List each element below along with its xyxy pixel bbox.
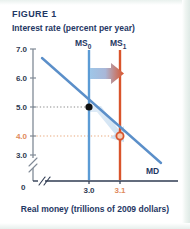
md-label: MD [146, 166, 159, 176]
y-tick-label-4: 4.0 [5, 132, 27, 141]
x-axis-title: Real money (trillions of 2009 dollars) [0, 204, 190, 214]
ms0-label: MS0 [75, 38, 91, 50]
y-tick-label-5: 5.0 [5, 103, 27, 112]
ms0-label-subscript: 0 [88, 43, 92, 50]
y-tick-label-3: 3.0 [5, 151, 27, 160]
ms0-label-text: MS [75, 38, 88, 48]
x-tick-label-3-0: 3.0 [78, 186, 100, 195]
equilibrium-point-initial [85, 103, 92, 110]
equilibrium-point-new [116, 132, 123, 139]
y-tick-label-7: 7.0 [5, 45, 27, 54]
ms1-label-text: MS [110, 38, 123, 48]
ms1-label-subscript: 1 [123, 43, 127, 50]
origin-label: 0 [21, 183, 25, 192]
x-tick-label-3-1: 3.1 [109, 186, 131, 195]
ms1-label: MS1 [110, 38, 126, 50]
y-tick-label-6: 6.0 [5, 74, 27, 83]
figure-card: FIGURE 1 Interest rate (percent per year… [0, 0, 190, 229]
